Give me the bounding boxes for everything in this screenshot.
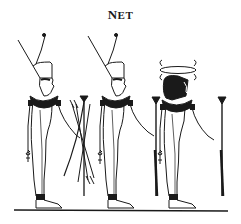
figure-3 <box>158 60 226 208</box>
scepter-icon <box>152 97 160 196</box>
crown-curl <box>36 34 45 64</box>
ground-line <box>14 210 228 211</box>
figure-1 <box>18 34 94 209</box>
red-crown-icon <box>88 36 124 78</box>
figure-2 <box>88 34 160 209</box>
red-crown-icon <box>18 40 52 78</box>
scepter-icon <box>218 97 226 196</box>
bow-and-arrows-icon <box>64 96 94 196</box>
goddess-illustration <box>0 0 241 224</box>
